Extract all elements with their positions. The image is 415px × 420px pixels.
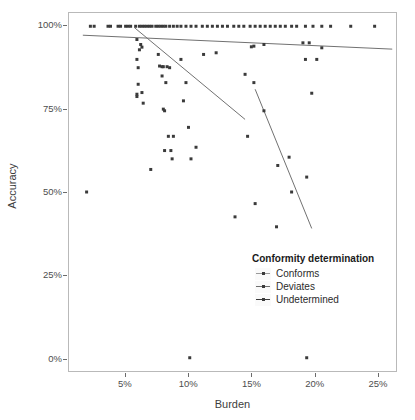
y-tick-label: 50% — [22, 187, 62, 197]
y-tick-label: 0% — [22, 354, 62, 364]
chart-figure: Accuracy 0%25%50%75%100% Conformity dete… — [0, 0, 415, 420]
data-point — [320, 46, 323, 49]
data-point — [244, 73, 247, 76]
data-point — [254, 25, 257, 28]
legend-item[interactable]: Conforms — [255, 267, 397, 280]
data-point — [308, 41, 311, 44]
data-point — [188, 356, 191, 359]
data-point — [179, 25, 182, 28]
legend-key-icon — [255, 281, 271, 293]
x-tick-label: 20% — [293, 379, 337, 389]
data-point — [172, 25, 175, 28]
y-tick-mark — [63, 25, 67, 26]
data-point — [202, 53, 205, 56]
legend-item[interactable]: Deviates — [255, 280, 397, 293]
legend-key-dot — [262, 298, 265, 301]
data-point — [276, 164, 279, 167]
data-point — [168, 66, 171, 69]
y-tick-mark — [63, 109, 67, 110]
y-tick-mark — [63, 192, 67, 193]
x-tick-label: 15% — [229, 379, 273, 389]
data-point — [137, 66, 140, 69]
data-point — [295, 25, 298, 28]
data-point — [215, 51, 218, 54]
data-points-group — [85, 25, 376, 359]
data-point — [259, 25, 262, 28]
x-tick-label: 10% — [166, 379, 210, 389]
data-point — [304, 25, 307, 28]
data-point — [249, 25, 252, 28]
data-point — [206, 25, 209, 28]
x-tick-mark — [315, 373, 316, 377]
data-point — [176, 25, 179, 28]
legend-items: ConformsDeviatesUndetermined — [252, 267, 397, 306]
data-point — [284, 25, 287, 28]
data-point — [172, 135, 175, 138]
data-point — [275, 225, 278, 228]
data-point — [161, 74, 164, 77]
data-point — [373, 25, 376, 28]
data-point — [119, 25, 122, 28]
data-point — [129, 25, 132, 28]
legend-item-label: Deviates — [276, 281, 315, 292]
data-point — [187, 126, 190, 129]
legend-item[interactable]: Undetermined — [255, 293, 397, 306]
data-point — [264, 25, 267, 28]
y-tick-mark — [63, 275, 67, 276]
data-point — [169, 149, 172, 152]
plot-canvas — [69, 13, 396, 371]
data-point — [109, 25, 112, 28]
data-point — [167, 135, 170, 138]
data-point — [237, 25, 240, 28]
data-point — [151, 25, 154, 28]
data-point — [190, 157, 193, 160]
data-point — [85, 191, 88, 194]
data-point — [211, 25, 214, 28]
data-point — [171, 157, 174, 160]
legend-item-label: Conforms — [276, 268, 319, 279]
data-point — [262, 43, 265, 46]
data-point — [140, 91, 143, 94]
data-point — [163, 149, 166, 152]
data-point — [135, 93, 138, 96]
data-point — [274, 25, 277, 28]
data-point — [311, 25, 314, 28]
data-point — [305, 356, 308, 359]
data-point — [195, 25, 198, 28]
data-point — [254, 202, 257, 205]
y-tick-label: 25% — [22, 271, 62, 281]
data-point — [179, 58, 182, 61]
x-tick-label: 5% — [103, 379, 147, 389]
data-point — [135, 58, 138, 61]
data-point — [226, 25, 229, 28]
data-point — [279, 25, 282, 28]
data-point — [201, 25, 204, 28]
data-point — [93, 25, 96, 28]
y-tick-mark — [63, 359, 67, 360]
x-tick-mark — [125, 373, 126, 377]
data-point — [252, 81, 255, 84]
y-axis-title-text: Accuracy — [6, 163, 18, 208]
data-point — [288, 156, 291, 159]
data-point — [269, 25, 272, 28]
data-point — [310, 92, 313, 95]
data-point — [164, 25, 167, 28]
data-point — [184, 81, 187, 84]
data-point — [290, 191, 293, 194]
legend-key-icon — [255, 268, 271, 280]
data-point — [157, 53, 160, 56]
x-tick-mark — [251, 373, 252, 377]
data-point — [182, 99, 185, 102]
data-point — [242, 25, 245, 28]
legend-key-icon — [255, 294, 271, 306]
trend-lines-group — [83, 28, 392, 229]
data-point — [304, 58, 307, 61]
data-point — [216, 25, 219, 28]
data-point — [142, 102, 145, 105]
legend-title: Conformity determination — [252, 253, 397, 264]
data-point — [349, 25, 352, 28]
x-tick-mark — [378, 373, 379, 377]
legend: Conformity determination ConformsDeviate… — [252, 253, 397, 306]
legend-item-label: Undetermined — [276, 294, 339, 305]
legend-key-dot — [262, 285, 265, 288]
